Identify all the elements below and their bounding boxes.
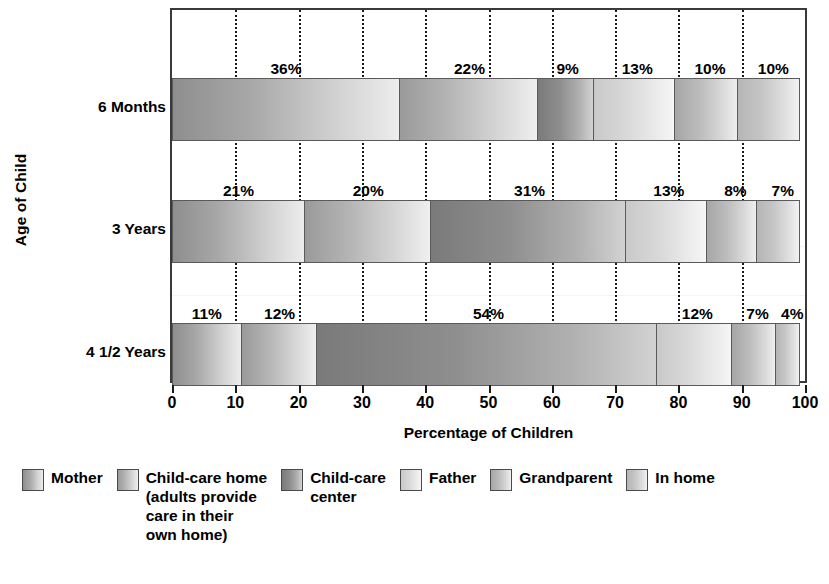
value-label: 12% (659, 297, 735, 323)
legend-swatch-icon (281, 469, 303, 491)
x-tick-label-80: 80 (669, 394, 687, 412)
category-label-1: 6 Months (61, 98, 166, 116)
bar-segment-ccHome (304, 200, 431, 263)
value-label: 12% (242, 297, 318, 323)
value-label: 13% (596, 52, 678, 78)
bar-row: 21%20%31%13%8%7% (172, 174, 805, 263)
value-label: 8% (710, 174, 761, 200)
value-label-strip: 21%20%31%13%8%7% (172, 174, 805, 200)
legend-item-1[interactable]: Child-care home (adults provide care in … (117, 468, 267, 544)
legend-swatch-icon (490, 469, 512, 491)
legend-label: Child-care center (310, 468, 386, 506)
bar-segment-ccHome (399, 78, 538, 141)
bar-segment-grandparent (706, 200, 757, 263)
x-tick-30 (362, 385, 364, 393)
x-tick-label-30: 30 (353, 394, 371, 412)
category-label-2: 3 Years (61, 220, 166, 238)
bar-segment-ccCenter (537, 78, 594, 141)
value-label: 7% (735, 297, 779, 323)
x-tick-label-90: 90 (733, 394, 751, 412)
legend-label: In home (655, 468, 714, 487)
value-label: 9% (539, 52, 596, 78)
x-axis-title: Percentage of Children (170, 424, 807, 442)
x-tick-50 (489, 385, 491, 393)
bar-row: 11%12%54%12%7%4% (172, 297, 805, 386)
chart-legend: MotherChild-care home (adults provide ca… (22, 468, 812, 578)
stacked-bar (172, 200, 805, 263)
x-tick-10 (235, 385, 237, 393)
x-tick-70 (615, 385, 617, 393)
bar-segment-father (593, 78, 675, 141)
x-tick-20 (299, 385, 301, 393)
legend-swatch-icon (400, 469, 422, 491)
bar-segment-father (656, 323, 732, 386)
x-tick-40 (425, 385, 427, 393)
x-tick-0 (172, 385, 174, 393)
legend-swatch-icon (22, 469, 44, 491)
legend-item-2[interactable]: Child-care center (281, 468, 386, 506)
value-label: 54% (318, 297, 660, 323)
bar-segment-mother (172, 78, 400, 141)
legend-item-5[interactable]: In home (626, 468, 714, 491)
bar-segment-grandparent (674, 78, 737, 141)
bar-segment-grandparent (731, 323, 775, 386)
x-tick-label-70: 70 (606, 394, 624, 412)
value-label: 11% (172, 297, 242, 323)
category-label-3: 4 1/2 Years (61, 343, 166, 361)
value-label: 36% (172, 52, 400, 78)
value-label: 31% (432, 174, 628, 200)
stacked-bar (172, 323, 805, 386)
legend-label: Father (429, 468, 476, 487)
value-label: 10% (678, 52, 741, 78)
value-label: 10% (742, 52, 805, 78)
bar-segment-ccCenter (430, 200, 626, 263)
bar-segment-ccHome (241, 323, 317, 386)
x-tick-label-20: 20 (290, 394, 308, 412)
value-label-strip: 11%12%54%12%7%4% (172, 297, 805, 323)
stacked-bar (172, 78, 805, 141)
legend-item-4[interactable]: Grandparent (490, 468, 612, 491)
value-label: 7% (761, 174, 805, 200)
bar-segment-ccCenter (316, 323, 658, 386)
x-tick-80 (678, 385, 680, 393)
x-tick-60 (552, 385, 554, 393)
x-axis-tick-labels: 0102030405060708090100 (170, 394, 807, 418)
bar-segment-father (625, 200, 707, 263)
bar-segment-inHome (775, 323, 800, 386)
plot-area: 36%22%9%13%10%10%21%20%31%13%8%7%11%12%5… (170, 8, 807, 383)
x-tick-100 (805, 385, 807, 393)
x-tick-90 (742, 385, 744, 393)
value-label: 4% (780, 297, 805, 323)
legend-label: Child-care home (adults provide care in … (146, 468, 267, 544)
bar-segment-mother (172, 200, 305, 263)
x-tick-label-0: 0 (168, 394, 177, 412)
scan-artifact (172, 295, 805, 296)
x-tick-label-50: 50 (480, 394, 498, 412)
value-label: 13% (628, 174, 710, 200)
legend-item-3[interactable]: Father (400, 468, 476, 491)
legend-item-0[interactable]: Mother (22, 468, 103, 491)
value-label: 20% (305, 174, 432, 200)
x-tick-label-100: 100 (792, 394, 819, 412)
bar-segment-mother (172, 323, 242, 386)
y-axis-title: Age of Child (6, 0, 36, 400)
y-axis-category-labels: 6 Months3 Years4 1/2 Years (40, 0, 166, 400)
legend-label: Grandparent (519, 468, 612, 487)
x-tick-label-40: 40 (416, 394, 434, 412)
legend-swatch-icon (117, 469, 139, 491)
x-tick-label-10: 10 (226, 394, 244, 412)
legend-label: Mother (51, 468, 103, 487)
value-label: 21% (172, 174, 305, 200)
plot-inner: 36%22%9%13%10%10%21%20%31%13%8%7%11%12%5… (172, 10, 805, 381)
bar-row: 36%22%9%13%10%10% (172, 52, 805, 141)
bar-segment-inHome (737, 78, 800, 141)
chart-figure: Age of Child 6 Months3 Years4 1/2 Years … (0, 0, 829, 584)
x-axis-ticks (170, 385, 807, 393)
legend-swatch-icon (626, 469, 648, 491)
bar-segment-inHome (756, 200, 800, 263)
y-axis-title-text: Age of Child (12, 154, 30, 246)
x-tick-label-60: 60 (543, 394, 561, 412)
value-label: 22% (400, 52, 539, 78)
value-label-strip: 36%22%9%13%10%10% (172, 52, 805, 78)
